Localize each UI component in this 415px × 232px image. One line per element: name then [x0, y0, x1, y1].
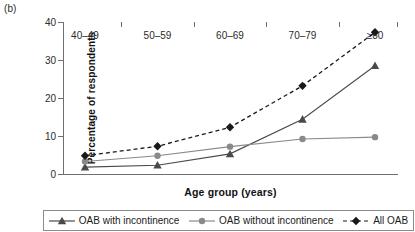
legend-label-0: OAB with incontinence: [79, 215, 180, 226]
series-0: [81, 62, 379, 171]
legend-item-0[interactable]: OAB with incontinence: [49, 215, 180, 227]
y-tick-label-0: 0: [50, 169, 56, 180]
series-2: [81, 28, 379, 160]
diamond-marker: [352, 216, 360, 224]
diamond-marker: [153, 142, 161, 150]
legend-item-2[interactable]: All OAB: [343, 215, 408, 227]
x-axis-line: [63, 174, 398, 175]
triangle-marker: [298, 115, 306, 123]
series-1: [82, 134, 378, 165]
x-tick-boundary-5: [397, 22, 398, 27]
legend-swatch-diamond: [343, 215, 369, 227]
chart-legend: OAB with incontinenceOAB without inconti…: [43, 210, 414, 231]
figure-panel-b: (b) Percentage of respondents 010203040 …: [0, 0, 415, 232]
circle-marker: [372, 134, 378, 140]
circle-marker: [299, 136, 305, 142]
plot-area: Percentage of respondents 010203040 40–4…: [63, 22, 397, 174]
legend-item-1[interactable]: OAB without incontinence: [189, 215, 334, 227]
diamond-marker: [298, 82, 306, 90]
y-tick-label-40: 40: [45, 17, 56, 28]
data-series-layer: [63, 22, 397, 174]
y-tick-label-30: 30: [45, 55, 56, 66]
diamond-marker: [81, 152, 89, 160]
circle-marker: [154, 153, 160, 159]
x-axis-title: Age group (years): [63, 186, 398, 198]
diamond-marker: [226, 123, 234, 131]
series-line-2: [85, 32, 375, 155]
legend-swatch-triangle: [49, 215, 75, 227]
circle-marker: [199, 217, 205, 223]
panel-label: (b): [4, 3, 17, 14]
triangle-marker: [371, 62, 379, 70]
y-tick-label-20: 20: [45, 93, 56, 104]
legend-label-1: OAB without incontinence: [219, 215, 334, 226]
legend-swatch-circle: [189, 215, 215, 227]
circle-marker: [227, 143, 233, 149]
triangle-marker: [226, 150, 234, 158]
y-tick-0: [58, 174, 63, 175]
y-tick-label-10: 10: [45, 131, 56, 142]
legend-label-2: All OAB: [373, 215, 408, 226]
